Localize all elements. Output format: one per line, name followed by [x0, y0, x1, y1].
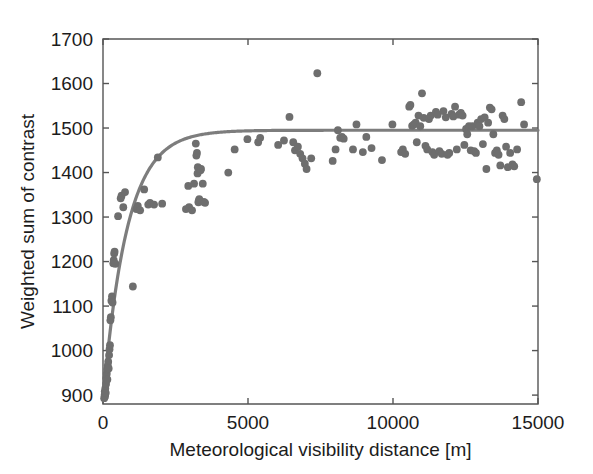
data-point — [201, 199, 209, 207]
data-point — [479, 140, 487, 148]
data-point — [129, 283, 137, 291]
data-point — [150, 201, 158, 209]
data-point — [154, 154, 162, 162]
data-point — [506, 149, 514, 157]
data-point — [107, 313, 115, 321]
data-point — [495, 151, 503, 159]
data-point — [488, 105, 496, 113]
data-point — [329, 157, 337, 165]
data-point — [533, 175, 541, 183]
axis-labels: 9001000110012001300140015001600170005000… — [17, 29, 564, 461]
y-tick-label: 1100 — [52, 296, 93, 317]
data-point — [119, 203, 127, 211]
data-point — [190, 180, 198, 188]
data-point — [510, 162, 518, 170]
data-point — [353, 121, 361, 129]
data-point — [476, 122, 484, 130]
scatter-plot: 9001000110012001300140015001600170005000… — [0, 0, 593, 474]
data-point — [463, 130, 471, 138]
data-point — [280, 137, 288, 145]
data-point — [244, 135, 252, 143]
x-tick-label: 10000 — [367, 412, 420, 433]
x-tick-label: 5000 — [227, 412, 269, 433]
data-point — [484, 119, 492, 127]
x-tick-label: 0 — [98, 412, 109, 433]
data-point — [513, 145, 521, 153]
data-point — [106, 341, 114, 349]
data-point — [407, 101, 415, 109]
data-point — [188, 206, 196, 214]
y-tick-label: 900 — [61, 385, 93, 406]
data-point — [111, 248, 119, 256]
fitted-curve — [104, 130, 538, 395]
data-point — [102, 389, 110, 397]
y-tick-label: 1200 — [51, 251, 93, 272]
y-tick-label: 1500 — [51, 118, 93, 139]
x-tick-label: 15000 — [512, 412, 565, 433]
data-point — [197, 165, 205, 173]
data-point — [416, 122, 424, 130]
data-points — [100, 69, 540, 402]
plot-axes — [103, 39, 538, 404]
data-point — [472, 149, 480, 157]
data-point — [192, 140, 200, 148]
data-point — [413, 138, 421, 146]
chart-figure: 9001000110012001300140015001600170005000… — [0, 0, 593, 474]
data-point — [140, 186, 148, 194]
data-point — [359, 148, 367, 156]
data-point — [517, 98, 525, 106]
data-point — [114, 212, 122, 220]
data-point — [378, 156, 386, 164]
y-tick-label: 1700 — [51, 29, 93, 50]
data-point — [451, 103, 459, 111]
data-point — [294, 143, 302, 151]
data-point — [286, 113, 294, 121]
data-point — [520, 121, 528, 129]
data-point — [105, 364, 113, 372]
data-point — [231, 145, 239, 153]
y-tick-label: 1000 — [51, 340, 93, 361]
data-point — [112, 260, 120, 268]
data-point — [121, 188, 129, 196]
data-point — [103, 376, 111, 384]
data-point — [349, 145, 357, 153]
data-point — [193, 149, 201, 157]
data-point — [256, 134, 264, 142]
x-axis-title: Meteorological visibility distance [m] — [169, 439, 471, 460]
data-point — [332, 145, 340, 153]
data-point — [482, 165, 490, 173]
plot-box — [103, 39, 538, 404]
data-point — [340, 135, 348, 143]
data-point — [334, 126, 342, 134]
data-point — [307, 154, 315, 162]
y-axis-title: Weighted sum of contrast — [17, 113, 38, 329]
data-point — [109, 299, 117, 307]
regression-curve — [104, 130, 538, 395]
y-tick-label: 1600 — [51, 73, 93, 94]
data-point — [445, 149, 453, 157]
data-point — [453, 145, 461, 153]
data-point — [199, 180, 207, 188]
data-point — [368, 144, 376, 152]
data-point — [136, 206, 144, 214]
data-point — [459, 112, 467, 120]
data-point — [418, 89, 426, 97]
data-point — [158, 200, 166, 208]
data-point — [500, 115, 508, 123]
data-point — [460, 141, 468, 149]
data-point — [313, 69, 321, 77]
data-point — [303, 165, 311, 173]
data-point — [224, 169, 232, 177]
data-point — [489, 130, 497, 138]
data-point — [496, 162, 504, 170]
data-point — [389, 121, 397, 129]
y-tick-label: 1400 — [51, 162, 93, 183]
data-point — [104, 358, 112, 366]
data-point — [401, 150, 409, 158]
y-tick-label: 1300 — [51, 207, 93, 228]
data-point — [362, 133, 370, 141]
